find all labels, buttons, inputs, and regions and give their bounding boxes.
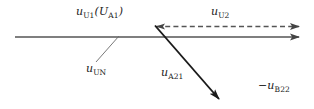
label-u-b22-sub: B22 bbox=[275, 85, 290, 94]
label-u-u1-sub2: A1 bbox=[108, 11, 118, 20]
vector-diagram-canvas bbox=[0, 0, 314, 109]
label-u-u1-base2: U bbox=[99, 5, 108, 18]
label-u-a21: uA21 bbox=[161, 67, 183, 78]
label-u-b22-base: u bbox=[267, 79, 274, 92]
label-u-u1-close-paren: ) bbox=[119, 5, 123, 18]
label-u-a21-sub: A21 bbox=[168, 72, 183, 81]
leader-line-u-un bbox=[96, 36, 119, 62]
label-u-u1: uU1(UA1) bbox=[76, 6, 123, 17]
label-u-un: uUN bbox=[86, 63, 106, 74]
label-u-b22: −uB22 bbox=[258, 80, 290, 91]
label-u-u1-sub: U1 bbox=[83, 11, 94, 20]
label-u-un-sub: UN bbox=[93, 68, 106, 77]
label-u-b22-minus: − bbox=[258, 79, 267, 92]
label-u-u2: uU2 bbox=[211, 6, 229, 17]
vector-diagram-figure: uU1(UA1) uU2 uUN uA21 −uB22 bbox=[0, 0, 314, 109]
label-u-u2-sub: U2 bbox=[218, 11, 229, 20]
